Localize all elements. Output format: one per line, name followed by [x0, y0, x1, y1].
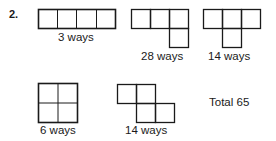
square-tetromino-shape [39, 84, 78, 123]
l-tetromino-label: 28 ways [141, 50, 183, 62]
s-tetromino-label: 14 ways [125, 124, 167, 136]
l-tetromino-shape [132, 10, 189, 48]
straight-tetromino-label: 3 ways [58, 31, 94, 43]
total-label: Total 65 [209, 96, 249, 108]
straight-tetromino-shape [39, 10, 116, 29]
t-tetromino-label: 14 ways [208, 50, 250, 62]
tetromino-figures [0, 0, 276, 141]
square-tetromino-label: 6 ways [40, 124, 76, 136]
t-tetromino-shape [204, 10, 261, 48]
s-tetromino-shape [118, 85, 175, 123]
